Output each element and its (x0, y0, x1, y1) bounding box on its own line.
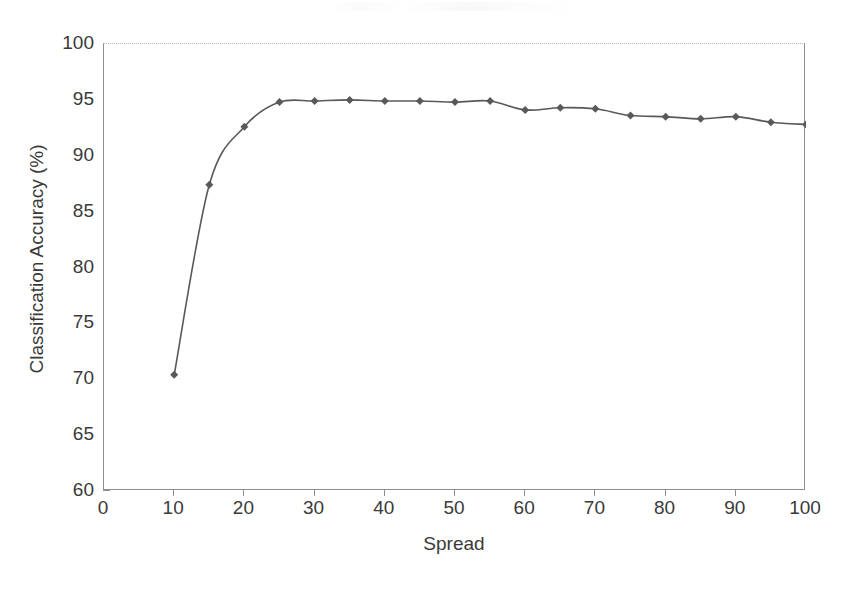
y-tick-label: 90 (42, 145, 94, 164)
data-point-marker: Spread 75, 93.6% (627, 112, 635, 120)
y-tick-label: 70 (42, 368, 94, 387)
y-tick-label: 75 (42, 312, 94, 331)
x-tick-mark (384, 490, 385, 496)
x-tick-mark (173, 490, 174, 496)
x-tick-label: 80 (635, 498, 695, 517)
x-tick-label: 20 (213, 498, 273, 517)
x-tick-mark (243, 490, 244, 496)
data-point-marker: Spread 100, 92.8% (802, 120, 806, 128)
chart-page: 1009590858075706560 Spread 10, 70.4%Spre… (0, 0, 850, 593)
x-tick-mark (314, 490, 315, 496)
data-point-marker: Spread 80, 93.5% (662, 113, 670, 121)
x-axis-title: Spread (103, 533, 805, 555)
x-tick-mark (454, 490, 455, 496)
y-axis-title: Classification Accuracy (%) (26, 49, 48, 469)
y-tick-label: 80 (42, 257, 94, 276)
x-tick-mark (594, 490, 595, 496)
data-point-marker: Spread 95, 93% (767, 118, 775, 126)
data-point-marker: Spread 50, 94.8% (451, 98, 459, 106)
data-point-marker: Spread 85, 93.3% (697, 115, 705, 123)
x-tick-label: 40 (354, 498, 414, 517)
y-tick-label: 85 (42, 201, 94, 220)
x-tick-label: 60 (494, 498, 554, 517)
data-point-marker: Spread 10, 70.4% (170, 371, 178, 379)
x-tick-label: 10 (143, 498, 203, 517)
data-point-marker: Spread 60, 94.1% (521, 106, 529, 114)
y-tick-label: 65 (42, 424, 94, 443)
data-point-marker: Spread 15, 87.4% (205, 181, 213, 189)
data-point-marker: Spread 35, 95% (346, 96, 354, 104)
series-line-chart: Spread 10, 70.4%Spread 15, 87.4%Spread 2… (104, 44, 806, 491)
data-point-marker: Spread 25, 94.8% (276, 98, 284, 106)
x-tick-mark (665, 490, 666, 496)
scan-artifact (330, 2, 580, 11)
x-tick-mark (524, 490, 525, 496)
data-point-marker: Spread 40, 94.9% (381, 97, 389, 105)
data-point-marker: Spread 70, 94.2% (591, 105, 599, 113)
x-tick-label: 100 (775, 498, 835, 517)
x-tick-label: 70 (564, 498, 624, 517)
y-tick-label: 60 (42, 480, 94, 499)
data-point-marker: Spread 30, 94.9% (311, 97, 319, 105)
data-point-marker: Spread 55, 94.9% (486, 97, 494, 105)
x-tick-label: 30 (284, 498, 344, 517)
series-line (174, 100, 806, 375)
data-point-marker: Spread 90, 93.5% (732, 113, 740, 121)
plot-area: Spread 10, 70.4%Spread 15, 87.4%Spread 2… (103, 43, 805, 490)
data-point-marker: Spread 45, 94.9% (416, 97, 424, 105)
x-tick-mark (735, 490, 736, 496)
data-point-marker: Spread 65, 94.3% (556, 104, 564, 112)
x-tick-label: 0 (73, 498, 133, 517)
x-tick-label: 90 (705, 498, 765, 517)
x-tick-label: 50 (424, 498, 484, 517)
y-tick-label: 100 (42, 33, 94, 52)
y-tick-label: 95 (42, 89, 94, 108)
